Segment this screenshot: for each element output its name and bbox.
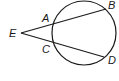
label-point-c: C (42, 43, 50, 55)
secant-ED (21, 33, 104, 57)
label-point-e: E (9, 27, 17, 39)
secant-diagram: E A B C D (0, 0, 119, 81)
secant-EB (21, 9, 106, 33)
label-point-b: B (108, 0, 115, 11)
circle (52, 1, 116, 65)
label-point-a: A (41, 12, 49, 24)
label-point-d: D (108, 54, 116, 66)
